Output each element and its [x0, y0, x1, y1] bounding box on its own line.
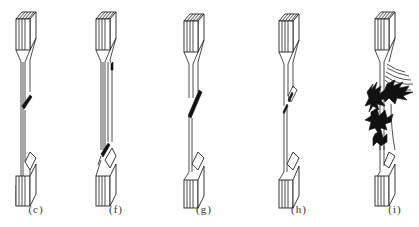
specimen-g: (g)	[174, 0, 234, 227]
panel-label-i: (i)	[365, 203, 419, 215]
panel-label-g: (g)	[174, 203, 234, 215]
specimen-c: (c)	[6, 0, 66, 227]
specimen-h: (h)	[269, 0, 329, 227]
specimen-c-drawing	[6, 0, 66, 200]
panel-label-f: (f)	[86, 203, 146, 215]
specimen-failure-diagram: (c) (f)	[0, 0, 419, 227]
specimen-i-drawing	[365, 0, 419, 200]
panel-label-c: (c)	[6, 203, 66, 215]
specimen-f-drawing	[86, 0, 146, 200]
specimen-f: (f)	[86, 0, 146, 227]
specimen-g-drawing	[174, 0, 234, 200]
panel-label-h: (h)	[269, 203, 329, 215]
specimen-h-drawing	[269, 0, 329, 200]
specimen-i: (i)	[365, 0, 419, 227]
